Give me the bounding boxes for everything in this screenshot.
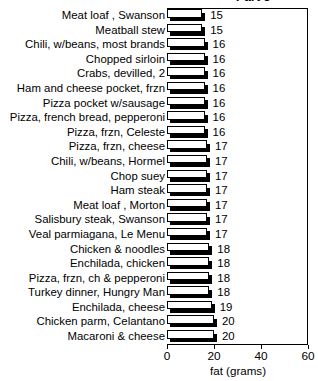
bar-face: [167, 199, 207, 208]
category-label: Enchilada, chicken: [70, 256, 165, 271]
category-label: Pizza, french bread, pepperoni: [10, 110, 165, 125]
category-label: Macaroni & cheese: [67, 329, 165, 344]
bar-value-label: 18: [217, 242, 230, 257]
bar-value-label: 16: [213, 52, 226, 67]
bar-row: Pizza, french bread, pepperoni16: [0, 110, 318, 125]
bar-face: [167, 9, 202, 18]
bar-face: [167, 97, 205, 106]
bar-chart: Part 3 Meat loaf , Swanson15Meatball ste…: [0, 0, 318, 381]
bar-value-label: 17: [215, 169, 228, 184]
bar-row: Turkey dinner, Hungry Man18: [0, 285, 318, 300]
bar-face: [167, 170, 207, 179]
bar-value-label: 20: [222, 329, 235, 344]
bar-value-label: 17: [215, 212, 228, 227]
bar-value-label: 16: [213, 37, 226, 52]
bar: [167, 213, 211, 225]
category-label: Chili, w/beans, most brands: [25, 37, 165, 52]
bar-row: Chopped sirloin16: [0, 52, 318, 67]
bar-row: Pizza, frzn, Celeste16: [0, 125, 318, 140]
bar-face: [167, 155, 207, 164]
bar-value-label: 17: [215, 227, 228, 242]
bar-face: [167, 82, 205, 91]
bar: [167, 67, 209, 79]
category-label: Meat loaf , Morton: [73, 198, 165, 213]
category-label: Chicken & noodles: [70, 242, 165, 257]
category-label: Pizza, frzn, ch & pepperoni: [29, 271, 165, 286]
bar-face: [167, 184, 207, 193]
category-label: Pizza, frzn, Celeste: [67, 125, 165, 140]
bar-row: Chili, w/beans, most brands16: [0, 37, 318, 52]
bar-face: [167, 301, 212, 310]
category-label: Chopped sirloin: [86, 52, 165, 67]
chart-part-title: Part 3: [236, 0, 316, 2]
bar-face: [167, 140, 207, 149]
bar-face: [167, 315, 214, 324]
bar: [167, 228, 211, 240]
bar-value-label: 17: [215, 139, 228, 154]
x-axis-title: fat (grams): [167, 364, 309, 378]
bar-row: Crabs, devilled, 216: [0, 66, 318, 81]
category-label: Meatball stew: [95, 23, 165, 38]
bar-face: [167, 272, 209, 281]
bar: [167, 184, 211, 196]
bar: [167, 272, 213, 284]
category-label: Meat loaf , Swanson: [62, 8, 165, 23]
bar-row: Chili, w/beans, Hormel17: [0, 154, 318, 169]
bar: [167, 97, 209, 109]
bar-face: [167, 24, 202, 33]
x-tick-label: 20: [199, 349, 229, 363]
bar-row: Salisbury steak, Swanson17: [0, 212, 318, 227]
bar: [167, 111, 209, 123]
bar-row: Meatball stew15: [0, 23, 318, 38]
bar-rows: Meat loaf , Swanson15Meatball stew15Chil…: [0, 8, 318, 344]
category-label: Chili, w/beans, Hormel: [51, 154, 165, 169]
bar-row: Pizza, frzn, ch & pepperoni18: [0, 271, 318, 286]
bar-value-label: 15: [210, 8, 223, 23]
bar: [167, 286, 213, 298]
category-label: Chicken parm, Celantano: [36, 314, 165, 329]
bar: [167, 315, 218, 327]
bar-row: Ham steak17: [0, 183, 318, 198]
bar-value-label: 18: [217, 256, 230, 271]
bar: [167, 140, 211, 152]
bar: [167, 9, 206, 21]
bar-row: Ham and cheese pocket, frzn16: [0, 81, 318, 96]
bar-row: Meat loaf , Swanson15: [0, 8, 318, 23]
bar: [167, 53, 209, 65]
bar-value-label: 20: [222, 314, 235, 329]
bar-row: Macaroni & cheese20: [0, 329, 318, 344]
bar-face: [167, 243, 209, 252]
x-tick-label: 60: [293, 349, 318, 363]
category-label: Salisbury steak, Swanson: [35, 212, 165, 227]
bar-value-label: 18: [217, 285, 230, 300]
bar: [167, 126, 209, 138]
bar-face: [167, 67, 205, 76]
bar-value-label: 16: [213, 66, 226, 81]
category-label: Ham steak: [111, 183, 165, 198]
bar-value-label: 16: [213, 110, 226, 125]
bar-row: Enchilada, cheese19: [0, 300, 318, 315]
bar: [167, 243, 213, 255]
bar-value-label: 16: [213, 81, 226, 96]
bar-value-label: 16: [213, 96, 226, 111]
bar: [167, 257, 213, 269]
x-tick-label: 0: [152, 349, 182, 363]
bar-face: [167, 111, 205, 120]
bar-row: Enchilada, chicken18: [0, 256, 318, 271]
bar-value-label: 17: [215, 183, 228, 198]
bar: [167, 199, 211, 211]
bar-face: [167, 228, 207, 237]
bar-row: Pizza pocket w/sausage16: [0, 96, 318, 111]
bar-value-label: 19: [220, 300, 233, 315]
category-label: Pizza pocket w/sausage: [43, 96, 165, 111]
bar: [167, 330, 218, 342]
bar-face: [167, 213, 207, 222]
bar-row: Chicken parm, Celantano20: [0, 314, 318, 329]
bar-value-label: 18: [217, 271, 230, 286]
bar-face: [167, 38, 205, 47]
bar: [167, 24, 206, 36]
bar-value-label: 17: [215, 198, 228, 213]
bar-face: [167, 286, 209, 295]
bar-value-label: 15: [210, 23, 223, 38]
bar-face: [167, 126, 205, 135]
